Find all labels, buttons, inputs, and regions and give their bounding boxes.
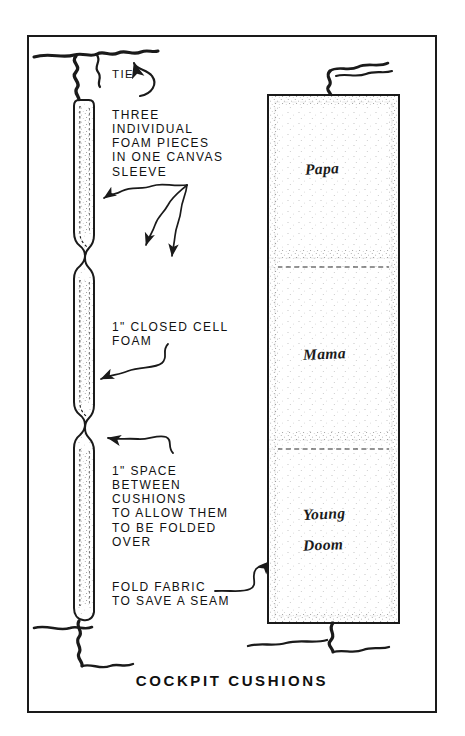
tie-callout-arrow (134, 63, 154, 96)
technical-drawing-canvas (0, 0, 465, 736)
panel-label-young: Young (303, 504, 346, 524)
foam-stipple-fill (81, 107, 90, 605)
sheet-title: COCKPIT CUSHIONS (27, 672, 437, 689)
annotation-space-between-cushions: 1" SPACE BETWEEN CUSHIONS TO ALLOW THEM … (112, 464, 228, 549)
three-foam-pieces-arrows (104, 184, 187, 256)
annotation-three-foam-pieces: THREE INDIVIDUAL FOAM PIECES IN ONE CANV… (112, 108, 223, 179)
panel-top-tie-cord (328, 63, 392, 96)
annotation-closed-cell-foam: 1" CLOSED CELL FOAM (112, 320, 229, 348)
drawing-sheet: TIE THREE INDIVIDUAL FOAM PIECES IN ONE … (0, 0, 465, 736)
space-between-cushions-arrow (108, 436, 173, 453)
panel-bottom-tie-cord (248, 623, 389, 652)
panel-label-mama: Mama (303, 344, 347, 364)
annotation-fold-fabric: FOLD FABRIC TO SAVE A SEAM (112, 580, 230, 608)
panel-label-doom: Doom (303, 535, 344, 555)
closed-cell-foam-arrow (101, 344, 168, 379)
top-tie-cord (34, 51, 158, 101)
annotation-tie: TIE (112, 68, 134, 82)
bottom-tie-cord (34, 621, 133, 667)
panel-label-papa: Papa (305, 159, 340, 178)
